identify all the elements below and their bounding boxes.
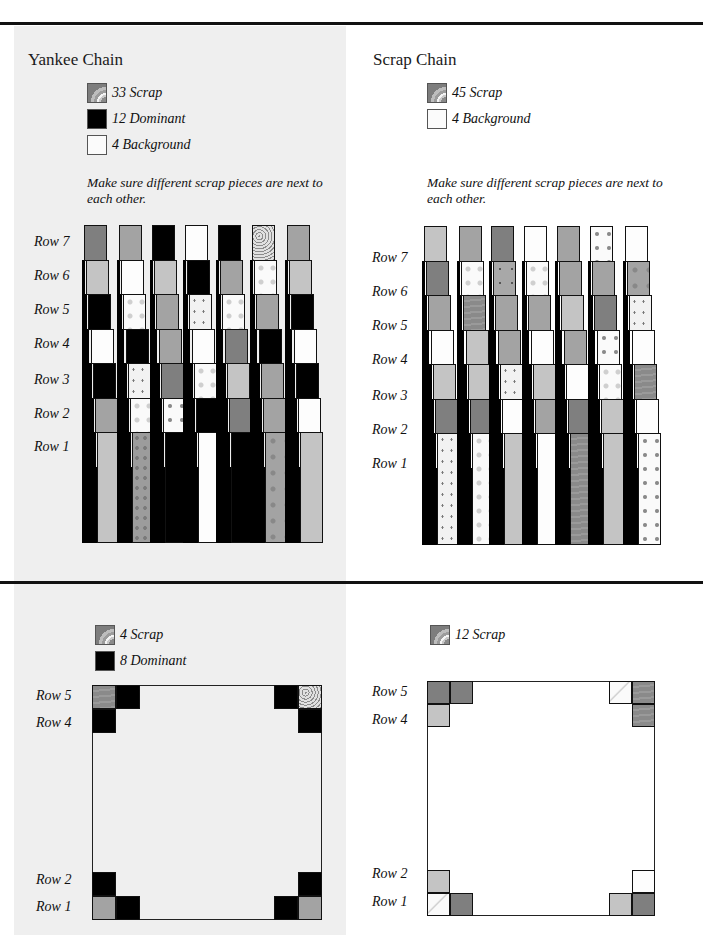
row-label: Row 4: [372, 352, 407, 368]
corner-piece: [427, 870, 450, 893]
legend-scrap: 4 Scrap: [95, 624, 163, 646]
corner-piece: [609, 681, 632, 704]
fabric-piece: [91, 329, 114, 365]
fabric-piece: [93, 363, 116, 399]
row-label: Row 7: [372, 250, 407, 266]
fabric-piece: [566, 364, 589, 400]
corner-piece: [274, 896, 298, 920]
row-label: Row 2: [372, 422, 407, 438]
fabric-piece: [597, 330, 620, 366]
fabric-piece: [119, 225, 142, 261]
fabric-piece: [152, 225, 175, 261]
fabric-piece: [229, 398, 252, 434]
dominant-swatch-icon: [95, 651, 115, 671]
fabric-piece: [625, 226, 648, 262]
corner-piece: [116, 685, 140, 709]
corner-piece: [427, 704, 450, 727]
fabric-piece: [636, 399, 659, 435]
row-label: Row 5: [34, 302, 69, 318]
row-label: Row 3: [372, 388, 407, 404]
fabric-piece: [500, 364, 523, 400]
fabric-piece: [533, 364, 556, 400]
fabric-piece: [128, 363, 151, 399]
fabric-piece: [154, 260, 177, 296]
row-label: Row 6: [34, 268, 69, 284]
legend-label: 4 Background: [452, 111, 530, 127]
fabric-piece: [599, 364, 622, 400]
scrap-swatch-icon: [430, 625, 450, 645]
fabric-piece: [294, 329, 317, 365]
row-label: Row 1: [34, 439, 69, 455]
fabric-piece: [594, 295, 617, 331]
legend-scrap: 45 Scrap: [427, 82, 502, 104]
corner-piece: [92, 685, 116, 709]
row-label: Row 5: [36, 688, 71, 704]
corner-piece: [274, 685, 298, 709]
legend-background: 4 Background: [427, 108, 530, 130]
fabric-piece: [126, 329, 149, 365]
fabric-piece: [466, 330, 489, 366]
fabric-piece: [291, 294, 314, 330]
fabric-piece: [159, 329, 182, 365]
fabric-piece: [189, 294, 212, 330]
fabric-piece: [95, 398, 118, 434]
corner-piece: [298, 709, 322, 733]
fabric-piece: [634, 364, 657, 400]
fabric-piece: [468, 364, 491, 400]
fabric-piece: [161, 363, 184, 399]
corner-piece: [92, 709, 116, 733]
fabric-piece: [123, 294, 146, 330]
fabric-piece: [86, 260, 109, 296]
corner-piece: [450, 893, 473, 916]
corner-piece: [450, 681, 473, 704]
fabric-piece: [435, 399, 458, 435]
fabric-piece: [590, 226, 613, 262]
corner-piece: [298, 872, 322, 896]
fabric-piece: [185, 225, 208, 261]
fabric-piece: [592, 261, 615, 297]
row-label: Row 5: [372, 318, 407, 334]
legend-scrap: 12 Scrap: [430, 624, 505, 646]
fabric-piece: [287, 225, 310, 261]
yankee-chain-title: Yankee Chain: [28, 50, 123, 70]
fabric-piece: [559, 261, 582, 297]
legend-label: 12 Dominant: [112, 111, 186, 127]
scrap-swatch-icon: [87, 83, 107, 103]
fabric-piece: [227, 363, 250, 399]
corner-piece: [298, 896, 322, 920]
fabric-piece: [627, 261, 650, 297]
fabric-piece: [564, 330, 587, 366]
fabric-piece: [192, 329, 215, 365]
fabric-piece: [84, 225, 107, 261]
fabric-piece: [252, 225, 275, 261]
fabric-piece: [225, 329, 248, 365]
block-outline: [427, 681, 655, 916]
fabric-piece: [289, 260, 312, 296]
legend-background: 4 Background: [87, 134, 190, 156]
fabric-piece: [632, 330, 655, 366]
fabric-piece: [121, 260, 144, 296]
legend-scrap: 33 Scrap: [87, 82, 162, 104]
fabric-piece: [156, 294, 179, 330]
background-swatch-icon: [87, 135, 107, 155]
fabric-piece: [261, 363, 284, 399]
legend-label: 12 Scrap: [455, 627, 505, 643]
background-swatch-icon: [427, 109, 447, 129]
fabric-piece: [638, 433, 661, 545]
fabric-piece: [528, 295, 551, 331]
fabric-piece: [263, 398, 286, 434]
fabric-piece: [498, 330, 521, 366]
fabric-piece: [426, 261, 449, 297]
row-label: Row 3: [34, 372, 69, 388]
row-label: Row 6: [372, 284, 407, 300]
scrap-chain-title: Scrap Chain: [373, 50, 457, 70]
fabric-piece: [526, 261, 549, 297]
legend-dominant: 12 Dominant: [87, 108, 186, 130]
fabric-piece: [557, 226, 580, 262]
scrap-swatch-icon: [427, 83, 447, 103]
scrap-swatch-icon: [95, 625, 115, 645]
fabric-piece: [194, 363, 217, 399]
fabric-piece: [88, 294, 111, 330]
fabric-piece: [220, 260, 243, 296]
legend-label: 4 Background: [112, 137, 190, 153]
